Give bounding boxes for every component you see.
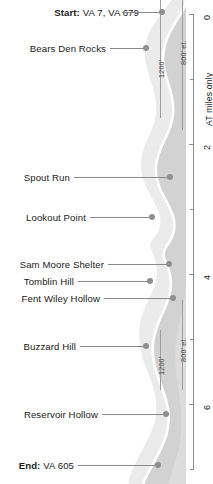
leader-dot-bears-den-rocks	[143, 45, 149, 51]
callout-label-bears-den-rocks: Bears Den Rocks	[30, 42, 106, 55]
callout-label-end: End: VA 605	[19, 459, 74, 472]
callout-sam-moore-shelter: Sam Moore Shelter	[4, 258, 104, 271]
axis-spine-line	[193, 14, 194, 470]
elevation-profile-figure: 1200' 800' el. 1200' 800' el. Start: VA …	[0, 0, 213, 484]
callout-prefix-start: Start:	[54, 7, 80, 18]
callout-tomblin-hill: Tomblin Hill	[4, 275, 74, 288]
leader-line-start	[122, 12, 162, 13]
callout-label-fent-wiley-hollow: Fent Wiley Hollow	[22, 292, 100, 305]
axis-label-2: 2	[202, 145, 212, 150]
leader-line-sam-moore-shelter	[108, 264, 169, 265]
leader-dot-lookout-point	[149, 214, 155, 220]
axis-tick-3	[190, 209, 194, 210]
axis-label-4: 4	[202, 275, 212, 280]
callout-body-end: VA 605	[40, 460, 74, 471]
leader-dot-sam-moore-shelter	[166, 261, 172, 267]
callout-label-tomblin-hill: Tomblin Hill	[24, 275, 74, 288]
callout-label-sam-moore-shelter: Sam Moore Shelter	[20, 258, 104, 271]
gridline-label-800-lower: 800' el.	[179, 337, 188, 362]
callout-label-lookout-point: Lookout Point	[26, 211, 86, 224]
callout-buzzard-hill: Buzzard Hill	[4, 340, 76, 353]
leader-dot-buzzard-hill	[143, 343, 149, 349]
gridline-label-1200-lower: 1200'	[157, 357, 166, 375]
callout-end: End: VA 605	[4, 459, 74, 472]
callout-label-spout-run: Spout Run	[24, 171, 70, 184]
leader-line-reservoir-hollow	[102, 414, 166, 415]
axis-label-6: 6	[202, 405, 212, 410]
axis-tick-5	[190, 339, 194, 340]
leader-dot-start	[159, 9, 165, 15]
axis-tick-0	[189, 14, 194, 15]
callout-lookout-point: Lookout Point	[4, 211, 86, 224]
axis-label-0: 0	[202, 15, 212, 20]
callout-fent-wiley-hollow: Fent Wiley Hollow	[4, 292, 100, 305]
axis-tick-1	[190, 79, 194, 80]
gridline-800-upper	[182, 0, 183, 130]
callout-bears-den-rocks: Bears Den Rocks	[4, 42, 106, 55]
callout-prefix-end: End:	[19, 460, 41, 471]
leader-dot-end	[155, 462, 161, 468]
gridline-label-800-upper: 800' el.	[179, 40, 188, 65]
axis-tick-4	[189, 274, 194, 275]
leader-line-spout-run	[74, 177, 170, 178]
leader-line-bears-den-rocks	[110, 48, 146, 49]
leader-line-buzzard-hill	[80, 346, 146, 347]
leader-line-lookout-point	[90, 217, 152, 218]
axis-tick-6	[189, 404, 194, 405]
leader-dot-spout-run	[167, 174, 173, 180]
callout-label-buzzard-hill: Buzzard Hill	[24, 340, 76, 353]
leader-dot-reservoir-hollow	[163, 411, 169, 417]
leader-dot-fent-wiley-hollow	[170, 295, 176, 301]
leader-line-end	[78, 465, 158, 466]
axis-title: AT miles only	[204, 73, 213, 126]
callout-spout-run: Spout Run	[4, 171, 70, 184]
leader-line-fent-wiley-hollow	[104, 298, 173, 299]
callout-label-reservoir-hollow: Reservoir Hollow	[24, 408, 98, 421]
axis-tick-7	[190, 469, 194, 470]
leader-line-tomblin-hill	[78, 281, 150, 282]
gridline-label-1200-upper: 1200'	[157, 60, 166, 78]
axis-tick-2	[189, 144, 194, 145]
leader-dot-tomblin-hill	[147, 278, 153, 284]
callout-start: Start: VA 7, VA 679	[4, 6, 139, 19]
callout-reservoir-hollow: Reservoir Hollow	[4, 408, 98, 421]
